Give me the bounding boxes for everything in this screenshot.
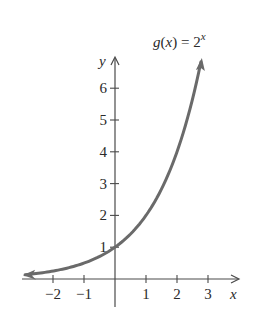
x-axis-label: x <box>229 286 237 302</box>
x-tick-label: 2 <box>173 286 181 302</box>
y-tick-label: 3 <box>100 176 108 192</box>
function-label: g(x) = 2x <box>153 30 206 51</box>
x-tick-label: 1 <box>142 286 150 302</box>
x-tick-label: −2 <box>45 286 61 302</box>
y-tick-label: 6 <box>100 80 108 96</box>
y-tick-label: 4 <box>100 144 108 160</box>
x-tick-label: 3 <box>204 286 212 302</box>
exponential-graph: −2−1123123456 y x g(x) = 2x <box>0 0 257 314</box>
y-tick-label: 2 <box>100 207 108 223</box>
x-tick-label: −1 <box>76 286 92 302</box>
y-tick-label: 5 <box>100 112 108 128</box>
curve-g-of-x <box>23 58 205 280</box>
y-axis-label: y <box>97 53 106 69</box>
